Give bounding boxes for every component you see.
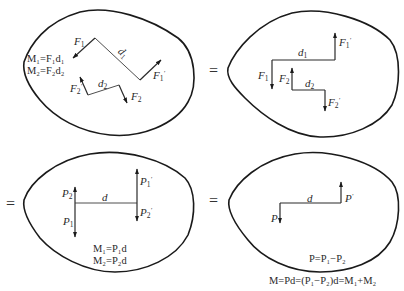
diagram-stage: = = = F1 F1′ F2′ F2 d1 d2 M₁=F₁d₁ M₂=F₂d… [0, 0, 404, 291]
formula-M2-p1: M₂=F₂d₂ [27, 66, 64, 77]
label-F1prime-p2: F1′ [339, 37, 351, 50]
couple-1-panel-1 [73, 38, 161, 80]
label-F2prime-p2: F2′ [328, 97, 340, 110]
label-F2prime-p1: F2′ [70, 83, 82, 96]
equals-sign-3: = [209, 193, 218, 209]
formula-M2-p3: M₂=P₂d [93, 256, 127, 267]
label-F2-p2: F2 [279, 73, 289, 86]
couples-panel-3 [75, 169, 137, 237]
label-Pprime-p4: P′ [345, 193, 353, 204]
label-F2-p1: F2 [131, 91, 141, 104]
label-F1-p2: F1 [258, 70, 268, 83]
label-P1prime-p3: P1′ [140, 176, 152, 189]
label-P-p4: P [271, 213, 278, 224]
label-F1prime-p1: F1′ [153, 70, 165, 83]
rigid-body-outline-2 [228, 11, 399, 137]
formula-P-p4: P=P₁−P₂ [309, 254, 346, 265]
label-d-p3: d [102, 192, 108, 203]
formula-M-p4: M=Pd=(P₁−P₂)d=M₁+M₂ [269, 276, 376, 287]
label-F1-p1: F1 [74, 36, 84, 49]
formula-M1-p1: M₁=F₁d₁ [27, 54, 64, 65]
label-d2-p1: d2 [98, 78, 107, 91]
label-P2-p3: P2 [62, 188, 72, 201]
label-P2prime-p3: P2′ [140, 207, 152, 220]
label-P1-p3: P1 [63, 216, 73, 229]
formula-M1-p3: M₁=P₁d [93, 244, 127, 255]
label-d-p4: d [307, 193, 313, 204]
label-d1-p2: d1 [298, 47, 307, 60]
label-d2-p2: d2 [305, 78, 314, 91]
equals-sign-1: = [209, 63, 218, 79]
equals-sign-2: = [6, 196, 15, 212]
